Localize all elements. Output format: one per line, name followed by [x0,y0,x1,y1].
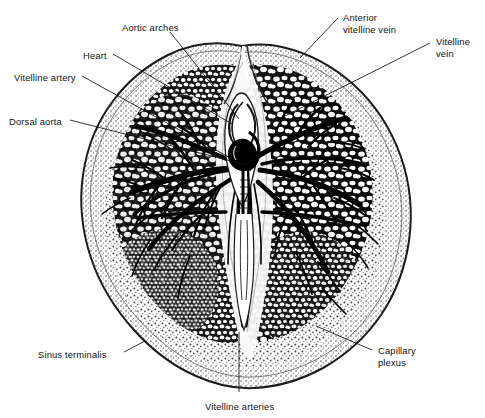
label-vitelline-vein: Vitelline vein [436,36,470,59]
label-dorsal-aorta-line1: Dorsal aorta [9,116,62,127]
label-vitelline-arteries-line1: Vitelline arteries [205,401,274,412]
label-anterior-vitelline-vein-line2: vitelline vein [343,24,396,36]
yolk-sac-diagram: Aortic arches Heart Vitelline artery Dor… [0,0,485,418]
label-vitelline-vein-line2: vein [436,48,470,60]
label-heart-line1: Heart [83,50,107,61]
label-capillary-plexus: Capillary plexus [378,345,416,368]
label-anterior-vitelline-vein-line1: Anterior [343,12,377,23]
label-capillary-plexus-line2: plexus [378,357,416,369]
label-vitelline-artery: Vitelline artery [14,72,76,84]
leader-anterior-vitelline-vein [300,18,338,58]
leader-sinus-terminalis [124,341,145,352]
label-sinus-terminalis: Sinus terminalis [38,349,107,361]
label-sinus-terminalis-line1: Sinus terminalis [38,349,107,360]
label-dorsal-aorta: Dorsal aorta [9,116,62,128]
label-aortic-arches: Aortic arches [122,22,179,34]
label-heart: Heart [83,50,107,62]
label-vitelline-arteries: Vitelline arteries [205,401,274,413]
label-anterior-vitelline-vein: Anterior vitelline vein [343,12,396,35]
label-vitelline-vein-line1: Vitelline [436,36,470,47]
label-capillary-plexus-line1: Capillary [378,345,416,356]
label-vitelline-artery-line1: Vitelline artery [14,72,76,83]
blastoderm-disc [70,18,430,400]
label-aortic-arches-line1: Aortic arches [122,22,179,33]
